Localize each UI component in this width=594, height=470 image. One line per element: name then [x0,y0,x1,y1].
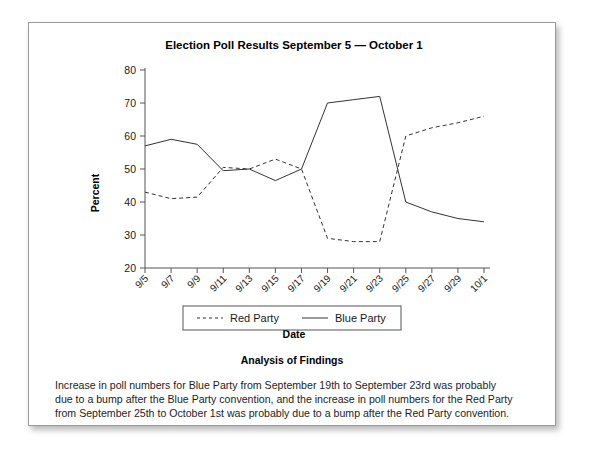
analysis-line-1: Increase in poll numbers for Blue Party … [55,378,535,392]
legend-label-blue-party: Blue Party [335,312,386,324]
chart-series [145,96,484,241]
x-axis-tick-label: 9/17 [285,272,307,294]
y-axis-tick-label: 20 [124,262,136,274]
chart-legend: Red PartyBlue Party [183,306,401,330]
x-axis-tick-label: 9/13 [233,272,255,294]
analysis-line-3: from September 25th to October 1st was p… [55,406,535,420]
y-axis-title: Percent [89,173,101,212]
x-axis-tick-label: 9/9 [185,272,203,290]
x-axis-tick-label: 9/7 [159,272,177,290]
analysis-line-2: due to a bump after the Blue Party conve… [55,392,535,406]
screenshot-root: Election Poll Results September 5 — Octo… [0,0,594,470]
y-axis-tick-label: 30 [124,229,136,241]
x-axis-tick-label: 9/19 [311,272,333,294]
analysis-text: Increase in poll numbers for Blue Party … [55,378,535,421]
legend-label-red-party: Red Party [230,312,279,324]
x-axis-tick-label: 9/15 [259,272,281,294]
x-axis-tick-label: 9/23 [364,272,386,294]
y-axis-tick-label: 50 [124,163,136,175]
y-axis-tick-label: 70 [124,97,136,109]
x-axis-tick-label: 9/29 [442,272,464,294]
x-axis-tick-label: 9/5 [133,272,151,290]
x-axis-tick-label: 9/27 [416,272,438,294]
x-axis: 9/59/79/99/119/139/159/179/199/219/239/2… [133,268,490,294]
analysis-heading: Analysis of Findings [29,354,555,366]
x-axis-tick-label: 9/11 [208,272,229,293]
report-card: Election Poll Results September 5 — Octo… [28,22,556,426]
y-axis-tick-label: 60 [124,130,136,142]
y-axis-tick-label: 40 [124,196,136,208]
poll-results-chart: Election Poll Results September 5 — Octo… [29,23,555,353]
chart-svg: Election Poll Results September 5 — Octo… [29,23,555,353]
chart-title: Election Poll Results September 5 — Octo… [165,39,423,51]
y-axis: 20304050607080 [124,64,145,274]
x-axis-tick-label: 10/1 [468,272,490,294]
x-axis-tick-label: 9/21 [337,272,359,294]
y-axis-tick-label: 80 [124,64,136,76]
x-axis-tick-label: 9/25 [390,272,412,294]
